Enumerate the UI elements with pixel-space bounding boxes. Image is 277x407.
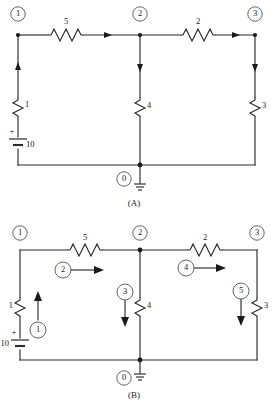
panel-a-node-3-label: 3 — [253, 8, 257, 18]
panel-b-resistor-5: 5 — [67, 232, 103, 256]
panel-b-resistor-4: 4 — [135, 297, 152, 317]
panel-b-node-0-label: 0 — [122, 372, 126, 382]
panel-b-node-3-label: 3 — [255, 227, 259, 237]
arrow-right-current-4 — [216, 264, 226, 272]
panel-b-caption: (B) — [128, 390, 140, 400]
panel-a-resistor-3: 3 — [250, 97, 266, 117]
panel-b-node-2-label: 2 — [138, 227, 142, 237]
panel-a-source-polarity: + — [9, 126, 14, 136]
panel-b-current-2: 2 — [55, 262, 104, 278]
panel-a-voltage-source: + 10 — [9, 126, 35, 149]
panel-b-resistor-1: 1 — [9, 297, 25, 317]
arrow-down-current-3 — [121, 317, 129, 327]
panel-b-current-5: 5 — [233, 283, 249, 326]
panel-b-source-polarity: + — [11, 327, 16, 337]
panel-b-current-3-label: 3 — [123, 286, 127, 296]
panel-b-current-1: 1 — [30, 291, 46, 338]
panel-b-ground-symbol — [134, 360, 146, 380]
node-dot-2 — [138, 33, 142, 37]
panel-a-resistor-5-label: 5 — [64, 16, 68, 26]
panel-a-resistor-2-label: 2 — [196, 16, 200, 26]
panel-a-node-ring-1: 1 — [11, 7, 25, 21]
panel-b-current-5-label: 5 — [239, 285, 243, 295]
panel-a-resistor-1-label: 1 — [25, 99, 29, 109]
panel-b-node-1-label: 1 — [18, 227, 22, 237]
panel-a-resistor-3-label: 3 — [262, 100, 266, 110]
panel-a-branch-arrows — [15, 32, 258, 72]
panel-b-current-3: 3 — [117, 284, 133, 327]
panel-a-resistor-5: 5 — [48, 16, 84, 41]
panel-a-caption: (A) — [128, 198, 141, 208]
panel-b-resistor-4-label: 4 — [147, 300, 152, 310]
panel-a-ground-symbol — [134, 165, 146, 190]
panel-b-resistor-1-label: 1 — [9, 300, 13, 310]
circuit-figure: 5 2 1 4 3 — [0, 0, 277, 407]
arrow-right-top-right-rail — [232, 32, 240, 38]
panel-b-node-ring-3: 3 — [250, 226, 264, 240]
arrow-down-right-branch — [252, 64, 258, 72]
panel-b-resistor-2-label: 2 — [203, 232, 207, 242]
arrow-right-top-left-rail — [104, 32, 112, 38]
panel-b-current-1-label: 1 — [36, 324, 40, 334]
circuit-canvas: 5 2 1 4 3 — [0, 0, 277, 407]
panel-b-source-label: 10 — [1, 338, 10, 348]
panel-b-node-ring-2: 2 — [133, 226, 147, 240]
panel-a-node-2-label: 2 — [138, 8, 142, 18]
arrow-up-current-1 — [34, 291, 42, 301]
panel-b-resistor-2: 2 — [187, 232, 223, 256]
panel-b-current-2-label: 2 — [61, 264, 65, 274]
panel-a-node-ring-0: 0 — [117, 172, 131, 186]
panel-b-resistor-3-label: 3 — [264, 300, 268, 310]
panel-a-source-label: 10 — [26, 139, 35, 149]
panel-a-node-dots — [16, 33, 257, 168]
panel-a-node-ring-3: 3 — [248, 7, 262, 21]
panel-a-node-ring-2: 2 — [133, 7, 147, 21]
panel-b: 5 2 1 4 3 — [1, 226, 269, 400]
panel-b-current-4: 4 — [178, 260, 226, 276]
arrow-up-left-branch — [15, 62, 21, 70]
panel-a-resistor-1: 1 — [13, 97, 29, 117]
panel-a-node-labels: 1 2 3 0 — [11, 7, 262, 186]
arrow-down-middle-branch — [137, 64, 143, 72]
panel-a-resistor-4: 4 — [135, 97, 152, 117]
panel-b-resistor-3: 3 — [252, 297, 268, 317]
panel-a-resistor-2: 2 — [180, 16, 216, 41]
panel-b-node-ring-0: 0 — [117, 371, 131, 385]
node-dot-3 — [253, 33, 257, 37]
arrow-down-current-5 — [237, 316, 245, 326]
panel-b-node-ring-1: 1 — [13, 226, 27, 240]
panel-a-node-0-label: 0 — [122, 173, 126, 183]
panel-a-node-1-label: 1 — [16, 8, 20, 18]
panel-a: 5 2 1 4 3 — [9, 7, 266, 208]
node-dot-2b — [138, 248, 143, 253]
arrow-right-current-2 — [94, 266, 104, 274]
panel-b-voltage-source: + 10 — [1, 327, 30, 348]
panel-b-resistor-5-label: 5 — [83, 232, 87, 242]
panel-a-resistor-4-label: 4 — [147, 100, 152, 110]
node-dot-1 — [16, 33, 20, 37]
